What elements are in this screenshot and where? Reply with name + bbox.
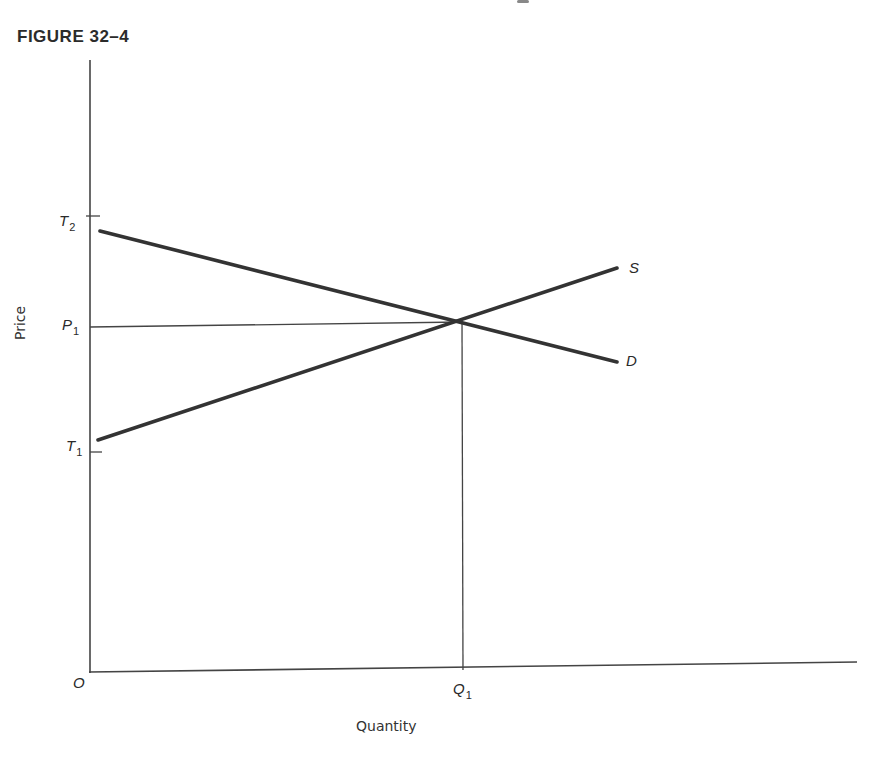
t2-label: T2 [59, 212, 75, 233]
x-axis [89, 662, 857, 672]
p1-reference-line [90, 322, 462, 327]
demand-label: D [626, 352, 637, 369]
y-axis-title: Price [12, 306, 28, 340]
t1-label-main: T [66, 437, 75, 454]
t2-label-sub: 2 [69, 221, 75, 233]
p1-label-main: P [62, 316, 72, 333]
p1-label-sub: 1 [73, 325, 79, 337]
t1-label: T1 [66, 437, 82, 458]
t2-label-main: T [59, 212, 68, 229]
origin-label: O [73, 674, 85, 691]
supply-curve [98, 268, 617, 440]
demand-curve [100, 231, 617, 362]
q1-label-sub: 1 [466, 689, 472, 701]
q1-label: Q1 [453, 680, 472, 701]
q1-reference-line [462, 322, 463, 670]
q1-label-main: Q [453, 680, 465, 697]
p1-label: P1 [62, 316, 79, 337]
t1-label-sub: 1 [76, 446, 82, 458]
chart-canvas [0, 0, 893, 783]
supply-label: S [629, 259, 639, 276]
x-axis-title: Quantity [356, 718, 417, 734]
